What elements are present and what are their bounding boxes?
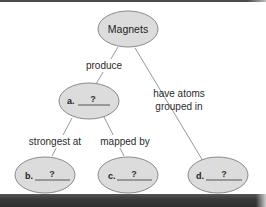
node-a-letter: a. xyxy=(67,96,75,106)
node-b xyxy=(15,157,75,193)
link-label-produce: produce xyxy=(86,60,123,71)
node-a-question: ? xyxy=(90,94,96,104)
node-d-letter: d. xyxy=(196,171,204,181)
bottom-rule xyxy=(0,194,266,207)
node-c-question: ? xyxy=(131,169,137,179)
link-label-have-atoms-2: grouped in xyxy=(155,101,202,112)
node-magnets-label: Magnets xyxy=(108,23,148,35)
node-d-question: ? xyxy=(221,169,227,179)
node-b-letter: b. xyxy=(25,171,33,181)
link-label-mapped-by: mapped by xyxy=(100,136,149,147)
concept-map: produce strongest at mapped by have atom… xyxy=(0,0,266,207)
link-label-strongest-at: strongest at xyxy=(29,136,81,147)
node-c xyxy=(98,157,158,193)
link-label-have-atoms-1: have atoms xyxy=(153,88,205,99)
node-c-letter: c. xyxy=(108,171,116,181)
node-b-question: ? xyxy=(49,169,55,179)
